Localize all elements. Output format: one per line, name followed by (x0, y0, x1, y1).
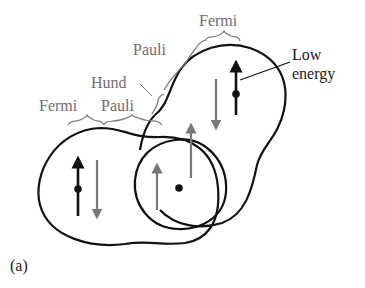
label-low: Low (292, 46, 322, 63)
label-hund: Hund (91, 74, 127, 91)
label-pauli-left: Pauli (101, 97, 134, 114)
label-fermi-left: Fermi (39, 97, 78, 114)
label-pauli-upper: Pauli (133, 41, 166, 58)
nucleus-dot-left (74, 185, 82, 193)
brace-pauli-upper (164, 40, 205, 90)
diagram-svg: Fermi Pauli Hund Pauli Fermi Low energy … (0, 0, 365, 288)
orbital-overlap-diagram: Fermi Pauli Hund Pauli Fermi Low energy … (0, 0, 365, 288)
label-energy: energy (292, 65, 335, 83)
brace-fermi-left (68, 115, 104, 125)
panel-label: (a) (10, 257, 28, 275)
nucleus-dot-center (175, 184, 183, 192)
hund-leader-line (140, 84, 152, 96)
center-orbital-outline (135, 139, 226, 229)
nucleus-dot-right (232, 90, 240, 98)
label-fermi-top: Fermi (199, 12, 238, 29)
brace-fermi-top (205, 31, 240, 41)
right-orbital-outline (155, 45, 286, 226)
